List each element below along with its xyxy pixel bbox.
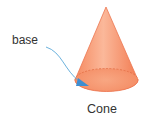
cone-diagram: base Cone <box>0 0 147 125</box>
base-label: base <box>12 34 38 46</box>
base-arrow <box>46 47 80 82</box>
cone-illustration <box>0 0 147 125</box>
cone-caption: Cone <box>87 103 117 115</box>
